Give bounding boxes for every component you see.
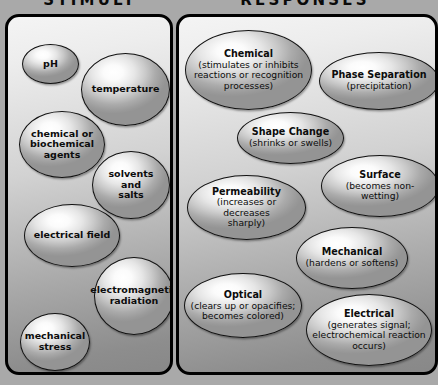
response-bubble-electrical: Electrical(generates signal;electrochemi… (306, 294, 432, 366)
response-title: Optical (191, 290, 296, 301)
stimulus-bubble-mechanical: mechanicalstress (20, 313, 90, 371)
response-detail: (clears up or opacifies;becomes colored) (191, 301, 296, 322)
response-bubble-mechanical: Mechanical(hardens or softens) (296, 227, 408, 289)
response-bubble-permeability: Permeability(increases or decreasessharp… (187, 175, 306, 240)
response-bubble-phase-separation: Phase Separation(precipitation) (319, 52, 438, 110)
stimulus-bubble-ph: pH (22, 44, 79, 84)
response-bubble-chemical: Chemical(stimulates or inhibitsreactions… (185, 30, 312, 110)
response-detail: (shrinks or swells) (249, 138, 332, 148)
response-bubble-surface: Surface(becomes non-wetting) (321, 155, 438, 217)
stimulus-bubble-electromagnetic: electromagneticradiation (94, 257, 173, 335)
stimulus-label: electrical field (29, 230, 115, 241)
response-detail: (stimulates or inhibitsreactions or reco… (194, 60, 303, 91)
stimulus-label: temperature (87, 84, 165, 95)
stimulus-bubble-chemical-or: chemical orbiochemicalagents (19, 111, 105, 178)
response-detail: (hardens or softens) (306, 258, 399, 268)
stimuli-panel: pHtemperaturechemical orbiochemicalagent… (5, 14, 173, 375)
stimulus-label: solvents andsalts (93, 169, 169, 201)
stimulus-bubble-temperature: temperature (81, 53, 170, 126)
stimulus-label: electromagneticradiation (85, 285, 173, 306)
response-bubble-shape-change: Shape Change(shrinks or swells) (237, 112, 344, 164)
stimulus-bubble-solvents-and: solvents andsalts (92, 151, 170, 219)
responses-panel: Chemical(stimulates or inhibitsreactions… (176, 14, 438, 375)
response-detail: (increases or decreasessharply) (193, 197, 300, 228)
responses-column-title: RESPONSES (176, 0, 434, 9)
stimuli-column-title: STIMULI (5, 0, 173, 9)
response-detail: (becomes non-wetting) (327, 181, 433, 202)
stimulus-label: chemical orbiochemicalagents (25, 129, 99, 161)
stimulus-label: mechanicalstress (20, 331, 90, 352)
stimulus-bubble-electrical-field: electrical field (24, 204, 120, 267)
response-detail: (generates signal;electrochemical reacti… (312, 320, 425, 351)
response-bubble-optical: Optical(clears up or opacifies;becomes c… (184, 273, 302, 338)
response-detail: (precipitation) (331, 81, 426, 91)
stimulus-label: pH (38, 59, 63, 70)
